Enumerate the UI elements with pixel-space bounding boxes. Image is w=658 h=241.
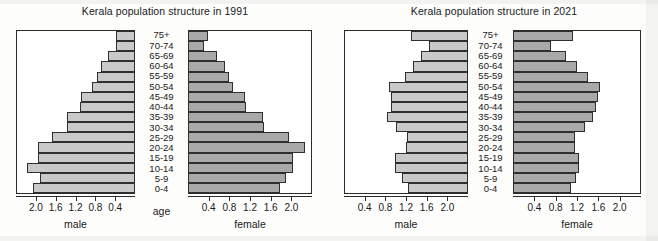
bar-rows-male-2021 [345,31,467,193]
bar-row [345,112,467,122]
female-bar [188,173,286,183]
bar-row [17,41,134,51]
axis-tick [598,196,599,201]
age-group-label: 35-39 [468,112,513,122]
plot-panel-female-2021 [513,30,641,194]
axis-tick-label: 0.8 [378,202,392,213]
female-bar [513,41,551,51]
male-bar [27,163,135,173]
bar-row [514,132,640,142]
age-group-label: 10-14 [468,163,513,173]
male-bar [395,163,468,173]
bar-row [17,82,134,92]
male-bar [389,82,468,92]
axis-tick [385,196,386,201]
x-axis-female-2021: 0.40.81.21.62.0 [513,196,641,203]
age-group-label: 10-14 [135,163,188,173]
age-group-labels-1991: 0-45-910-1415-1920-2425-2930-3435-3940-4… [135,30,188,194]
bar-row [345,72,467,82]
bar-row [17,102,134,112]
axis-tick-label: 2.0 [284,202,298,213]
bar-row [189,41,311,51]
male-bar [411,31,468,41]
x-axis-male-2021: 0.40.81.21.62.0 [344,196,468,203]
axis-tick [534,196,535,201]
age-group-label: 70-74 [135,40,188,50]
male-bar [406,142,468,152]
bar-row [17,51,134,61]
female-bar [188,112,263,122]
axis-tick [56,196,57,201]
male-bar [116,41,135,51]
bar-row [189,163,311,173]
axis-tick-label: 0.4 [527,202,541,213]
bar-row [189,31,311,41]
axis-tick [427,196,428,201]
bar-row [345,153,467,163]
bar-row [345,102,467,112]
axis-label-female-2021: female [561,218,593,230]
age-group-label: 0-4 [468,184,513,194]
axis-tick-label: 2.0 [613,202,627,213]
plot-panel-female-1991 [188,30,312,194]
bar-row [17,112,134,122]
age-group-labels-2021: 0-45-910-1415-1920-2425-2930-3435-3940-4… [468,30,513,194]
axis-tick-label: 1.6 [591,202,605,213]
chart-title-1991: Kerala population structure in 1991 [0,5,330,17]
female-bar [513,183,571,193]
female-bar [188,72,229,82]
age-group-label: 50-54 [468,81,513,91]
pyramid-figure-2021: Kerala population structure in 2021 0-45… [330,0,658,241]
female-bar [188,153,293,163]
male-bar [421,51,468,61]
axis-tick [76,196,77,201]
age-group-label: 55-59 [135,71,188,81]
age-group-label: 50-54 [135,81,188,91]
female-bar [513,92,598,102]
chart-title-2021: Kerala population structure in 2021 [330,5,658,17]
axis-tick-label: 0.8 [549,202,563,213]
bar-row [17,72,134,82]
female-bar [188,51,217,61]
female-bar [513,31,573,41]
bar-rows-female-2021 [514,31,640,193]
axis-tick-label: 1.6 [420,202,434,213]
bar-row [345,61,467,71]
bar-row [17,61,134,71]
female-bar [188,163,293,173]
male-bar [396,122,468,132]
axis-tick-label: 1.6 [264,202,278,213]
bar-row [17,122,134,132]
male-bar [92,82,135,92]
axis-tick-label: 1.6 [49,202,63,213]
axis-tick-label: 1.2 [243,202,257,213]
bar-row [189,61,311,71]
female-bar [513,72,588,82]
female-bar [513,61,577,71]
bar-row [17,92,134,102]
male-bar [33,183,135,193]
female-bar [513,142,575,152]
male-bar [405,72,468,82]
axis-label-age-1991: age [153,205,171,217]
female-bar [513,102,596,112]
bar-row [514,61,640,71]
axis-tick [291,196,292,201]
bar-row [514,31,640,41]
bar-row [514,51,640,61]
female-bar [188,142,305,152]
axis-tick-label: 2.0 [440,202,454,213]
axis-tick [556,196,557,201]
axis-tick-label: 0.8 [222,202,236,213]
bar-row [514,163,640,173]
bar-row [17,163,134,173]
axis-tick [229,196,230,201]
age-group-label: 30-34 [468,122,513,132]
female-bar [513,132,575,142]
bar-row [345,142,467,152]
axis-tick [95,196,96,201]
axis-tick-label: 1.2 [399,202,413,213]
bar-row [514,102,640,112]
axis-tick [271,196,272,201]
bar-row [345,82,467,92]
